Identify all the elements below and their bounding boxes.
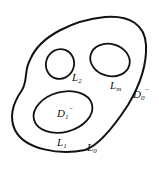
label-L2: L2 — [71, 71, 82, 85]
inner-contour-Lm — [87, 39, 134, 80]
diagram-canvas: L2 Lm D0− D1− L1 L0 — [0, 0, 159, 169]
label-D0-minus: D0− — [132, 86, 149, 102]
contour-diagram: L2 Lm D0− D1− L1 L0 — [0, 0, 159, 169]
label-L1: L1 — [56, 136, 67, 150]
label-Lm: Lm — [109, 79, 121, 93]
label-D1-minus: D1− — [56, 105, 73, 121]
